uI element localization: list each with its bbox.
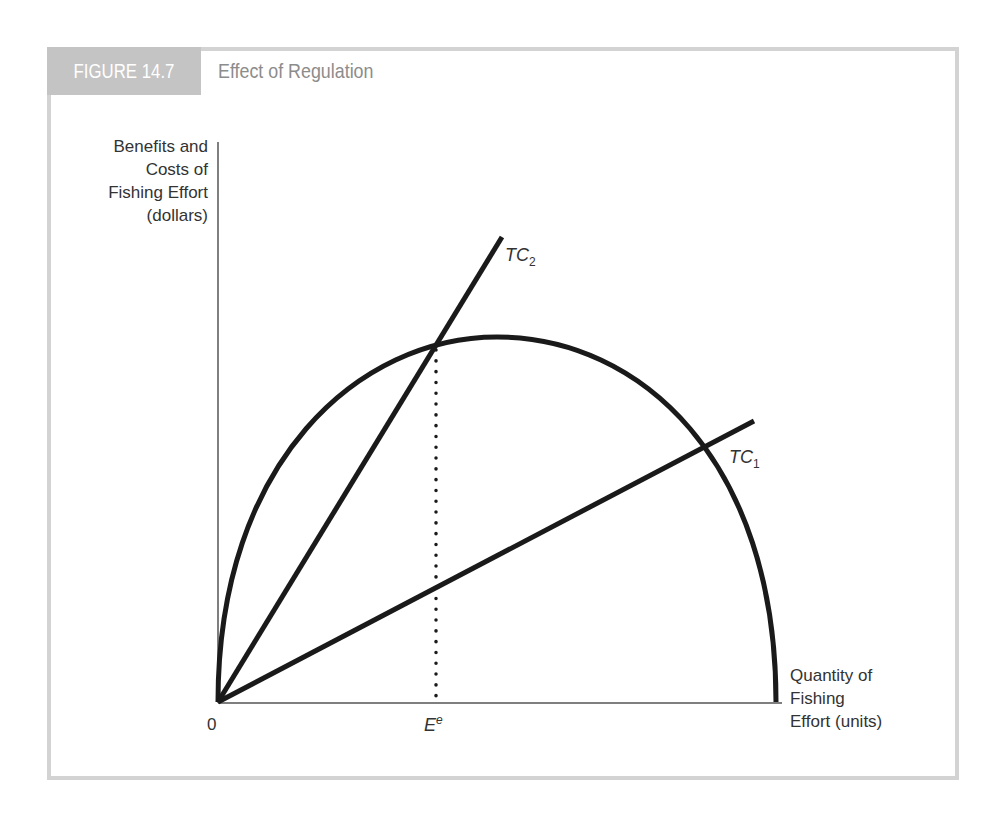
tc1-label: TC1 (729, 447, 760, 471)
tc2-line (218, 237, 502, 702)
x-axis-label: Quantity of Fishing Effort (units) (790, 664, 882, 733)
tc1-line (218, 421, 754, 702)
y-axis-label: Benefits and Costs of Fishing Effort (do… (108, 135, 208, 227)
origin-label: 0 (207, 715, 216, 735)
total-benefit-curve (218, 337, 776, 702)
ee-tick-label: Ee (424, 713, 443, 736)
tc2-label: TC2 (505, 245, 536, 269)
